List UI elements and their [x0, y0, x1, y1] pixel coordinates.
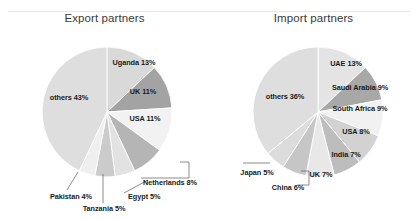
figure-canvas: Export partners Uganda 13%UK 11%USA 11%N…	[0, 0, 418, 219]
pie-slice-label: Tanzania 5%	[83, 204, 126, 213]
pie-slice-label: Saudi Arabia 9%	[332, 83, 388, 92]
pie-slice-label: others 43%	[50, 93, 88, 102]
pie-slice-label: Pakistan 4%	[50, 192, 92, 201]
pie-slice-label: others 36%	[266, 92, 304, 101]
pie-slice-label: India 7%	[331, 150, 360, 159]
pie-slice-label: South Africa 9%	[333, 104, 388, 113]
pie-slice-label: UK 11%	[130, 87, 156, 96]
chart-panel-export: Export partners Uganda 13%UK 11%USA 11%N…	[0, 0, 209, 219]
callout-line	[67, 172, 78, 190]
callout-line	[141, 162, 189, 178]
pie-slice-label: Netherlands 8%	[143, 178, 197, 187]
pie-slice-label: UK 7%	[310, 170, 333, 179]
pie-slice-label: Egypt 5%	[128, 192, 160, 201]
pie-slice-label: Uganda 13%	[113, 58, 156, 67]
pie-slice-label: USA 8%	[342, 127, 369, 136]
pie-slice-label: USA 11%	[129, 114, 160, 123]
pie-slice-label: UAE 13%	[330, 59, 362, 68]
pie-slice-label: China 6%	[272, 183, 304, 192]
pie-slice-label: Japan 5%	[240, 168, 273, 177]
chart-panel-import: Import partners UAE 13%Saudi Arabia 9%So…	[209, 0, 418, 219]
